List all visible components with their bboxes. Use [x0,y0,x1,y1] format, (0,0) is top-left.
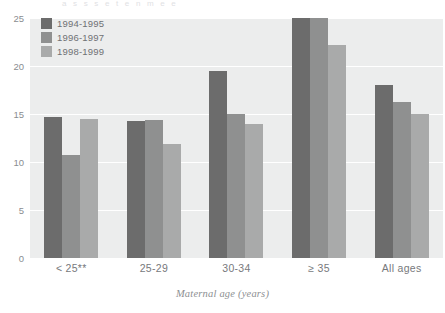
legend-item-label: 1998-1999 [57,46,104,57]
x-axis-tick-label: 25-29 [113,262,196,280]
bar-group [278,18,361,258]
legend-item-label: 1996-1997 [57,32,104,43]
clipped-text-fragment: a s s s e t e n m e e [0,0,445,11]
x-axis-tick-label: ≥ 35 [278,262,361,280]
bar-group [113,18,196,258]
y-axis-tick-label: 5 [0,205,24,216]
bar [393,102,411,258]
legend-item: 1996-1997 [41,31,104,43]
bar [127,121,145,258]
legend-item: 1994-1995 [41,17,104,29]
bar [44,117,62,258]
bar [62,155,80,258]
bar [163,144,181,258]
color-swatch-icon [41,18,52,29]
bar [292,18,310,258]
legend: 1994-19951996-19971998-1999 [41,17,104,57]
x-axis-labels: < 25**25-2930-34≥ 35All ages [30,262,443,280]
bar [80,119,98,258]
bar [145,120,163,258]
y-axis-tick-label: 20 [0,61,24,72]
color-swatch-icon [41,32,52,43]
bar [411,114,429,258]
x-axis-tick-label: All ages [360,262,443,280]
y-axis-tick-label: 25 [0,13,24,24]
bar [227,114,245,258]
gridline [30,258,443,259]
bar-group [195,18,278,258]
chart-figure: a s s s e t e n m e e 2520151050 < 25**2… [0,0,445,313]
bar [328,45,346,258]
bar [310,18,328,258]
y-axis-tick-label: 15 [0,109,24,120]
bar [375,85,393,258]
legend-item-label: 1994-1995 [57,18,104,29]
x-axis-title: Maternal age (years) [0,288,445,299]
color-swatch-icon [41,46,52,57]
bar [245,124,263,258]
x-axis-tick-label: 30-34 [195,262,278,280]
bar [209,71,227,258]
y-axis-tick-label: 0 [0,253,24,264]
bar-group [360,18,443,258]
y-axis-tick-label: 10 [0,157,24,168]
x-axis-tick-label: < 25** [30,262,113,280]
legend-item: 1998-1999 [41,45,104,57]
